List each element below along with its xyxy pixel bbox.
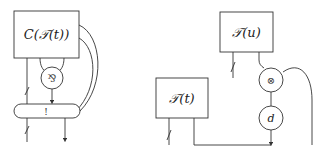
outer-arc xyxy=(79,25,98,111)
bang-icon: ! xyxy=(44,106,48,117)
par-icon: ⅋ xyxy=(48,73,57,84)
box-label: C(𝒯(t)) xyxy=(24,27,69,42)
tensor-icon: ⊗ xyxy=(267,75,275,86)
box-label: 𝒯(t) xyxy=(169,91,194,106)
box-label: 𝒯(u) xyxy=(232,25,261,40)
right-arc xyxy=(283,68,312,145)
right-diagram: 𝒯(u) ⊗ d 𝒯(t) xyxy=(156,12,312,145)
d-label: d xyxy=(267,112,274,125)
proof-net-diagrams: C(𝒯(t)) ⅋ ! 𝒯(u) ⊗ d 𝒯(t) xyxy=(0,0,319,152)
t-u-wire-right xyxy=(259,52,264,68)
left-diagram: C(𝒯(t)) ⅋ ! xyxy=(14,11,98,142)
